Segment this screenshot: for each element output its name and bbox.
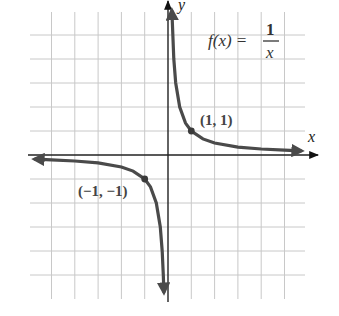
point-label-1-1: (1, 1) <box>200 112 233 129</box>
x-axis-label: x <box>307 128 315 145</box>
function-denominator: x <box>265 43 274 62</box>
point-label-neg1-neg1: (−1, −1) <box>78 183 128 200</box>
y-axis-label: y <box>176 0 186 14</box>
function-numerator: 1 <box>266 20 275 39</box>
function-label: f(x) = 1 x <box>208 20 279 62</box>
function-lhs: f(x) = <box>208 31 247 50</box>
reciprocal-function-graph: x y (1, 1) (−1, −1) f(x) = 1 x <box>0 0 339 316</box>
point-neg1-neg1 <box>141 176 148 183</box>
point-1-1 <box>188 128 195 135</box>
